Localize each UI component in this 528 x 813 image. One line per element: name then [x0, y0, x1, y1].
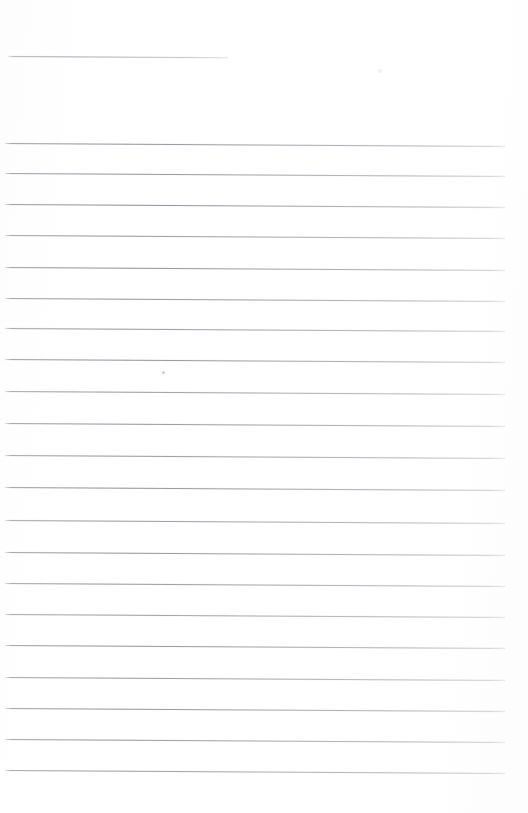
paper-surface [0, 0, 528, 813]
scanned-page [0, 0, 528, 813]
rule-line [5, 708, 505, 712]
rule-line [5, 173, 505, 177]
rule-line [5, 677, 505, 681]
rule-line [5, 552, 505, 556]
rule-line [5, 583, 505, 587]
rule-line [5, 645, 505, 649]
rule-line [5, 739, 505, 743]
rule-line [5, 235, 505, 239]
rule-line [5, 359, 505, 363]
rule-line [5, 455, 505, 459]
rule-line [5, 520, 505, 524]
rule-line [5, 770, 505, 774]
scan-speck-center [162, 371, 165, 374]
rule-line [5, 614, 505, 618]
rule-line [5, 298, 505, 302]
rule-line [5, 143, 505, 147]
rule-line [5, 391, 505, 395]
rule-line [5, 267, 505, 271]
rule-line [5, 204, 505, 208]
rule-line [5, 487, 505, 491]
rule-line [8, 56, 228, 58]
rule-line [5, 423, 505, 427]
scan-speck-top-right [378, 69, 382, 73]
rule-line [5, 328, 505, 332]
